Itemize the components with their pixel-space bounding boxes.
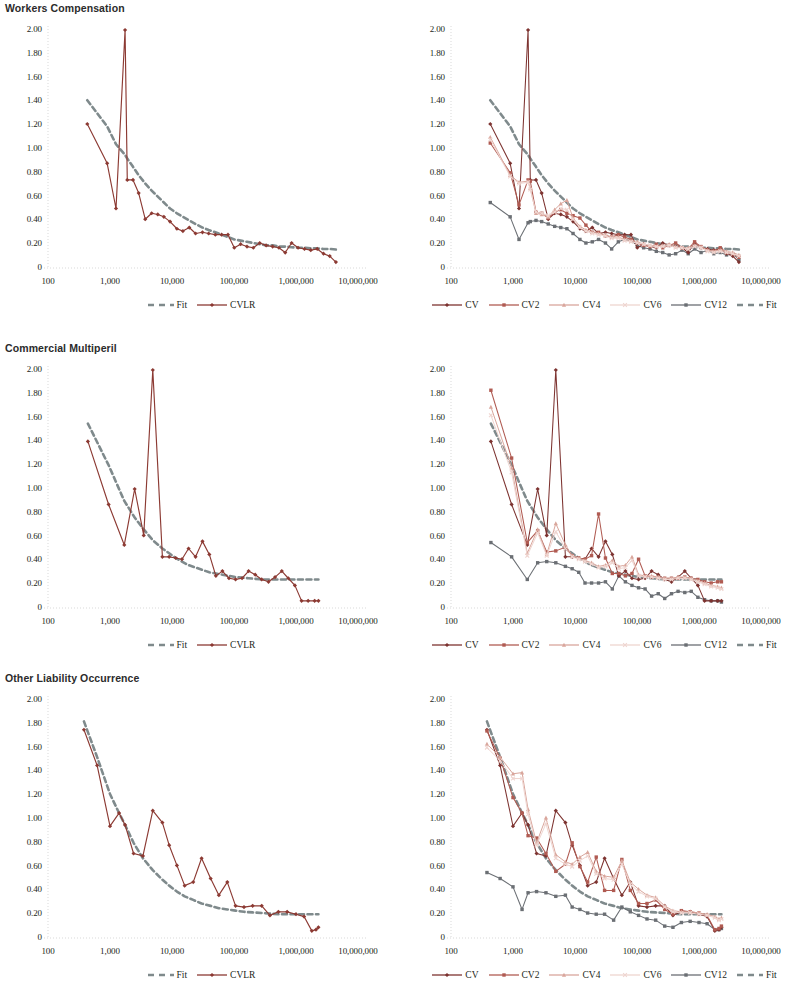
legend-label: CV4 [582,970,600,980]
legend-item-cv12[interactable]: CV12 [671,300,727,310]
legend-item-cvlr[interactable]: CVLR [197,970,255,980]
legend-label: CV4 [582,640,600,650]
data-point-marker [200,539,204,543]
series-line [487,731,721,930]
series-line [88,370,319,601]
series-cv12 [485,871,723,932]
legend-item-fit[interactable]: Fit [737,300,777,310]
legend-item-cv4[interactable]: CV4 [549,300,600,310]
panel-row-1: Workers Compensation00.200.400.600.801.0… [0,0,806,340]
legend-swatch-cv2-icon [489,641,519,649]
y-axis-tick-label: 0.80 [8,837,42,847]
legend-item-fit[interactable]: Fit [737,970,777,980]
data-point-marker [594,880,598,884]
legend-item-cv4[interactable]: CV4 [549,640,600,650]
plot-area [0,0,403,340]
data-point-marker [489,201,492,204]
legend-item-cv2[interactable]: CV2 [489,300,540,310]
y-axis-tick-label: 0.20 [411,578,445,588]
y-axis-tick-label: 0.60 [8,861,42,871]
y-axis-tick-label: 0.40 [411,554,445,564]
data-point-marker [595,913,598,916]
y-axis-tick-label: 0.80 [411,167,445,177]
legend-left: FitCVLR [0,970,403,980]
series-cv6 [488,138,740,258]
legend-item-cvlr[interactable]: CVLR [197,640,255,650]
data-point-marker [210,973,214,977]
legend-item-cvlr[interactable]: CVLR [197,300,255,310]
data-point-marker [564,565,567,568]
legend-item-cv6[interactable]: CV6 [610,300,661,310]
data-point-marker [624,574,627,577]
data-point-marker [485,871,488,874]
data-point-marker [520,908,523,911]
legend-item-cv2[interactable]: CV2 [489,970,540,980]
data-point-marker [207,231,211,235]
legend-item-cv6[interactable]: CV6 [610,970,661,980]
legend-item-fit[interactable]: Fit [148,640,188,650]
legend-item-fit[interactable]: Fit [148,300,188,310]
y-axis-tick-label: 1.00 [411,483,445,493]
chart-right-row-1: 00.200.400.600.801.001.201.401.601.802.0… [403,0,806,340]
data-point-marker [654,918,657,921]
legend-label: CV12 [704,640,727,650]
data-point-marker [603,889,606,892]
data-point-marker [306,599,310,603]
data-point-marker [86,439,90,443]
data-point-marker [310,929,314,933]
data-point-marker [299,599,303,603]
data-point-marker [544,852,547,855]
data-point-marker [637,914,640,917]
series-fit [487,721,721,914]
y-axis-tick-label: 2.00 [8,694,42,704]
data-point-marker [242,905,246,909]
legend-swatch-fit-icon [148,641,174,649]
legend-label: CVLR [230,970,255,980]
data-point-marker [510,456,513,459]
plot-svg [0,0,403,340]
data-point-marker [534,178,538,182]
legend-item-cv4[interactable]: CV4 [549,970,600,980]
data-point-marker [133,487,137,491]
legend-swatch-cv2-icon [489,971,519,979]
legend-right: CVCV2CV4CV6CV12Fit [403,970,806,980]
series-line [84,730,318,931]
y-axis-tick-label: 1.20 [411,459,445,469]
y-axis-tick-label: 1.40 [411,765,445,775]
legend-label: CV6 [643,970,661,980]
legend-item-cv12[interactable]: CV12 [671,640,727,650]
legend-label: CV [465,970,478,980]
data-point-marker [554,895,557,898]
data-point-marker [540,191,544,195]
data-point-marker [643,587,646,590]
data-point-marker [526,834,529,837]
legend-label: Fit [177,640,188,650]
series-line [87,30,336,262]
series-cv6 [485,746,723,922]
data-point-marker [655,250,658,253]
data-point-marker [565,198,569,202]
data-point-marker [207,552,211,556]
data-point-marker [696,596,699,599]
legend-item-cv12[interactable]: CV12 [671,970,727,980]
data-point-marker [611,587,614,590]
legend-item-cv6[interactable]: CV6 [610,640,661,650]
legend-item-cv[interactable]: CV [432,640,478,650]
data-point-marker [210,643,214,647]
legend-item-fit[interactable]: Fit [148,970,188,980]
legend-item-cv[interactable]: CV [432,300,478,310]
legend-item-fit[interactable]: Fit [737,640,777,650]
y-axis-tick-label: 1.20 [8,459,42,469]
data-point-marker [233,904,237,908]
series-fit [490,100,739,249]
data-point-marker [683,591,686,594]
data-point-marker [508,215,511,218]
legend-item-cv[interactable]: CV [432,970,478,980]
legend-item-cv2[interactable]: CV2 [489,640,540,650]
legend-swatch-cv4-icon [549,301,579,309]
legend-label: Fit [766,970,777,980]
data-point-marker [199,856,203,860]
data-point-marker [720,924,723,927]
legend-swatch-cv6-icon [610,971,640,979]
series-line [84,721,318,914]
